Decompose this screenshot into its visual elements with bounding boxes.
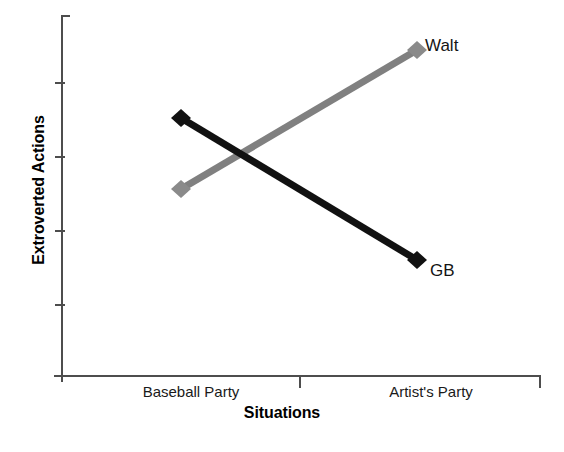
series-gb [171,109,427,269]
series-gb-line [181,118,417,260]
series-walt-line [181,50,417,189]
x-tick-label-artists-party: Artist's Party [338,383,524,400]
series-walt [171,41,427,198]
series-label-gb: GB [430,261,455,281]
y-axis-title: Extroverted Actions [26,75,52,305]
series-label-walt: Walt [425,36,458,56]
x-axis-title: Situations [0,404,564,422]
axis-lines [54,15,541,376]
x-tick-label-baseball-party: Baseball Party [98,383,284,400]
chart-figure: Extroverted Actions Situations Baseball … [0,0,564,452]
y-axis-ticks [55,83,65,305]
